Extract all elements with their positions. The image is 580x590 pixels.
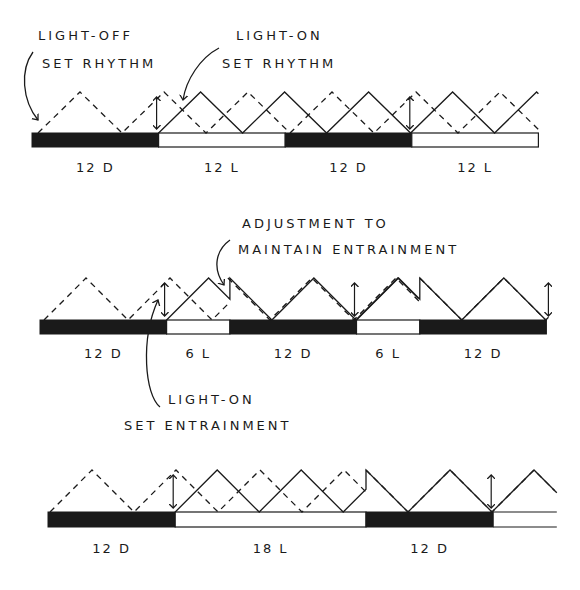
schedule-label: 6 L — [375, 346, 401, 361]
solid-rhythm-line — [167, 278, 419, 320]
dashed-rhythm-line — [420, 278, 551, 320]
entrained-rhythm-solid — [159, 92, 539, 133]
phase-shift-arrows — [165, 283, 549, 316]
phase-shift-arrows — [173, 475, 491, 508]
light-phase-segment — [175, 512, 366, 527]
light-off-pointer-arrow — [24, 52, 38, 120]
solid-rhythm-line — [357, 278, 547, 320]
dashed-rhythm-line — [38, 92, 540, 133]
light-phase-segment — [412, 133, 539, 147]
free-running-rhythm-dashed — [50, 470, 557, 512]
lighting-schedule-bar — [32, 133, 538, 147]
dark-phase-segment — [285, 133, 412, 147]
schedule-label: 12 L — [204, 160, 240, 175]
entrained-rhythm-solid — [175, 470, 555, 512]
dark-phase-segment — [366, 512, 493, 527]
schedule-labels: 12 D18 L12 D — [92, 541, 449, 556]
schedule-label: 12 D — [464, 346, 503, 361]
schedule-label: 12 D — [76, 160, 115, 175]
dark-phase-segment — [48, 512, 175, 527]
dark-phase-segment — [420, 320, 547, 334]
schedule-label: 12 D — [92, 541, 131, 556]
schedule-labels: 12 D12 L12 D12 L — [76, 160, 493, 175]
schedule-label: 12 L — [457, 160, 493, 175]
lighting-schedule-bar — [40, 320, 546, 334]
light-phase-segment — [357, 320, 420, 334]
schedule-label: 12 D — [274, 346, 313, 361]
schedule-label: 12 D — [329, 160, 368, 175]
annotation-light-on-line2: SET RHYTHM — [222, 56, 336, 71]
lighting-schedule-bar — [48, 512, 557, 527]
schedule-label: 12 D — [410, 541, 449, 556]
schedule-label: 12 D — [84, 346, 123, 361]
dark-phase-segment — [32, 133, 159, 147]
annotation-set-entrainment-line2: SET ENTRAINMENT — [124, 418, 291, 433]
free-running-rhythm-dashed — [38, 92, 540, 133]
free-running-rhythm-dashed — [44, 278, 550, 320]
light-phase-segment — [167, 320, 230, 334]
panel-2: ADJUSTMENT TO MAINTAIN ENTRAINMENT LIGHT… — [40, 216, 550, 433]
schedule-label: 6 L — [185, 346, 211, 361]
panel-3: 12 D18 L12 D — [48, 470, 557, 556]
solid-rhythm-line — [159, 92, 539, 133]
dashed-rhythm-line — [50, 470, 366, 512]
dark-phase-segment — [230, 320, 357, 334]
entrainment-diagram: LIGHT-OFF SET RHYTHM LIGHT-ON SET RHYTHM… — [0, 0, 580, 590]
solid-rhythm-line — [175, 470, 555, 512]
light-phase-segment — [159, 133, 286, 147]
set-entrainment-pointer-arrow — [146, 300, 160, 407]
annotation-adjustment-line1: ADJUSTMENT TO — [242, 216, 389, 231]
dark-phase-segment — [40, 320, 167, 334]
annotation-light-off-line2: SET RHYTHM — [42, 56, 156, 71]
annotation-light-on-line1: LIGHT-ON — [236, 28, 323, 43]
annotation-adjustment-line2: MAINTAIN ENTRAINMENT — [238, 242, 459, 257]
annotation-light-off-line1: LIGHT-OFF — [38, 28, 133, 43]
annotation-set-entrainment-line1: LIGHT-ON — [168, 392, 255, 407]
phase-shift-arrows — [157, 97, 410, 129]
panel-1: LIGHT-OFF SET RHYTHM LIGHT-ON SET RHYTHM… — [24, 28, 540, 175]
schedule-label: 18 L — [253, 541, 289, 556]
